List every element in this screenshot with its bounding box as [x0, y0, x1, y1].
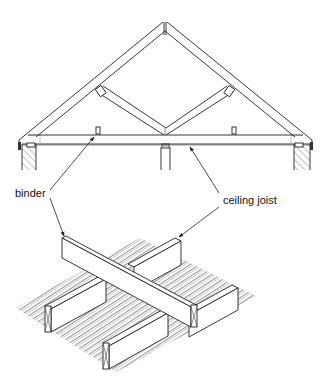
center-post	[161, 144, 170, 170]
ceiling-joist-elevation	[22, 135, 310, 147]
isometric-detail	[16, 236, 256, 372]
truss-elevation	[18, 22, 313, 170]
web-struts	[95, 85, 235, 135]
binder-sections	[96, 127, 236, 134]
label-ceiling-joist-group: ceiling joist	[179, 147, 277, 237]
rafters	[18, 22, 313, 150]
truss-diagram: binder ceiling joist	[0, 0, 330, 381]
left-wall	[22, 144, 36, 170]
label-binder: binder	[15, 187, 46, 199]
label-ceiling-joist: ceiling joist	[223, 194, 277, 206]
right-wall	[294, 144, 310, 170]
